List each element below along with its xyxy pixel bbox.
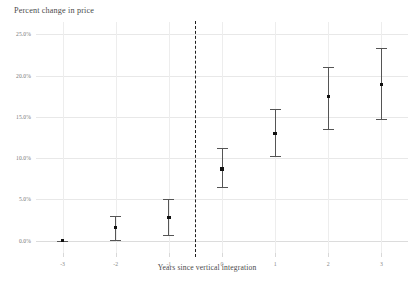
- data-point-marker: [61, 239, 64, 242]
- y-axis-tick-label: 25.0%: [16, 31, 31, 37]
- error-bar-cap-lower: [110, 240, 121, 241]
- error-bar-point: [216, 22, 228, 253]
- x-axis-tick-mark: [63, 253, 64, 257]
- error-bar-point: [269, 22, 281, 253]
- error-bar-cap-upper: [110, 216, 121, 217]
- y-axis-tick-label: 10.0%: [16, 155, 31, 161]
- data-point-marker: [327, 95, 330, 98]
- error-bar-point: [110, 22, 122, 253]
- error-bar-point: [322, 22, 334, 253]
- y-axis-tick-label: 0.0%: [19, 238, 31, 244]
- error-bar-cap-upper: [323, 67, 334, 68]
- x-axis-label: Years since vertical integration: [0, 263, 414, 272]
- error-bar-cap-lower: [323, 129, 334, 130]
- plot-area: 0.0%5.0%10.0%15.0%20.0%25.0% -3-2-10123: [36, 22, 408, 253]
- y-axis-tick-label: 5.0%: [19, 196, 31, 202]
- error-bar-point: [57, 22, 69, 253]
- data-point-marker: [114, 226, 117, 229]
- error-bar-cap-upper: [163, 199, 174, 200]
- error-bar-cap-lower: [270, 156, 281, 157]
- data-point-marker: [380, 83, 383, 86]
- error-bar-cap-lower: [217, 187, 228, 188]
- x-axis-tick-mark: [116, 253, 117, 257]
- error-bar-cap-upper: [217, 148, 228, 149]
- error-bar-cap-lower: [376, 119, 387, 120]
- x-axis-tick-mark: [328, 253, 329, 257]
- x-axis-tick-mark: [381, 253, 382, 257]
- error-bar-cap-lower: [163, 235, 174, 236]
- x-axis-tick-mark: [275, 253, 276, 257]
- data-point-marker: [167, 216, 170, 219]
- chart-title: Percent change in price: [14, 6, 94, 15]
- data-series-error-bars: [36, 22, 408, 253]
- x-axis-tick-mark: [222, 253, 223, 257]
- error-bar-cap-upper: [270, 109, 281, 110]
- error-bar-point: [163, 22, 175, 253]
- y-axis-tick-label: 15.0%: [16, 114, 31, 120]
- data-point-marker: [273, 132, 276, 135]
- x-axis-tick-mark: [169, 253, 170, 257]
- error-bar-cap-upper: [376, 48, 387, 49]
- error-bar-point: [375, 22, 387, 253]
- y-axis-tick-label: 20.0%: [16, 73, 31, 79]
- chart-figure: Percent change in price 0.0%5.0%10.0%15.…: [0, 0, 414, 287]
- data-point-marker: [220, 167, 223, 170]
